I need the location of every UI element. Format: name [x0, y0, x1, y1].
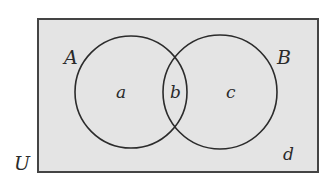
region-d-label: d	[283, 144, 294, 164]
set-b-label: B	[276, 46, 291, 68]
venn-diagram: A B U a b c d	[0, 0, 328, 193]
region-a-label: a	[116, 82, 126, 102]
set-a-label: A	[62, 46, 78, 68]
universe-label: U	[14, 152, 31, 174]
region-c-label: c	[226, 82, 236, 102]
region-b-label: b	[170, 82, 181, 102]
